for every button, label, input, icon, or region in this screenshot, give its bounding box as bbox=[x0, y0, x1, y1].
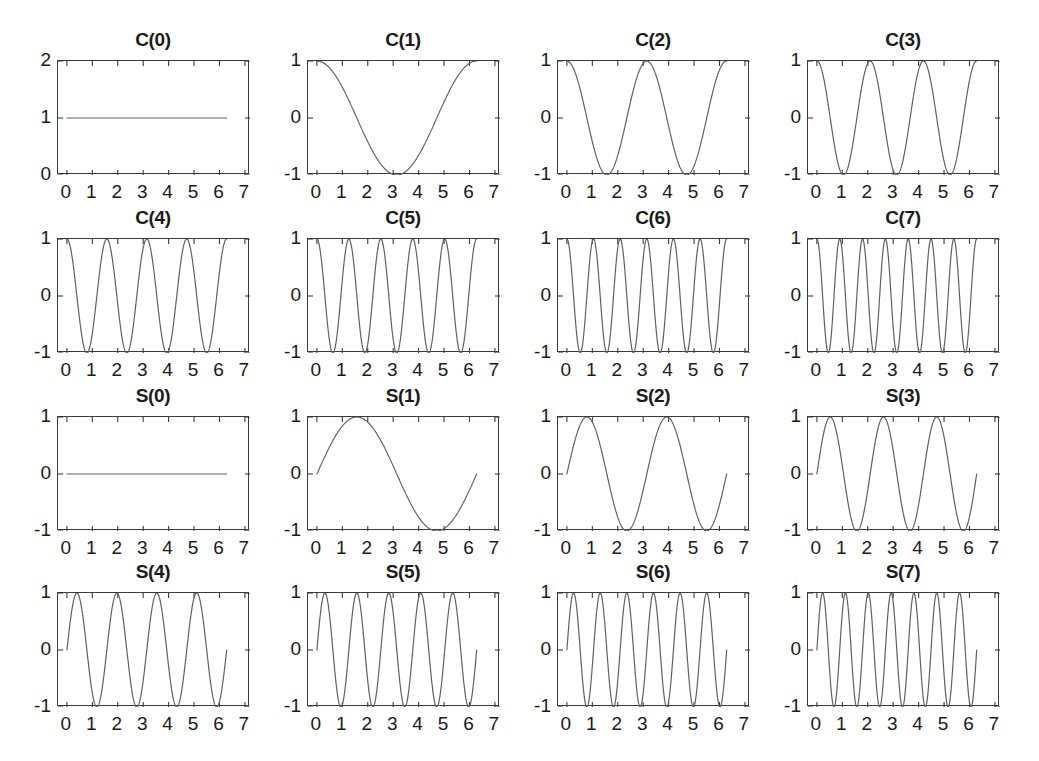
x-axis-tick-label: 7 bbox=[732, 360, 756, 379]
x-axis-tick-label: 7 bbox=[482, 360, 506, 379]
x-axis-tick-label: 3 bbox=[380, 538, 404, 557]
plot-axes-box bbox=[807, 416, 999, 530]
y-axis-tick-label: -1 bbox=[267, 164, 301, 183]
x-axis-tick-label: 1 bbox=[79, 714, 103, 733]
x-axis-tick-label: 7 bbox=[232, 538, 256, 557]
plot-drawing bbox=[308, 61, 500, 175]
x-axis-tick-label: 3 bbox=[130, 360, 154, 379]
x-axis-tick-label: 2 bbox=[855, 714, 879, 733]
x-axis-tick-label: 3 bbox=[630, 360, 654, 379]
x-axis-tick-label: 5 bbox=[681, 714, 705, 733]
x-axis-tick-label: 4 bbox=[156, 360, 180, 379]
y-axis-tick-label: 1 bbox=[267, 406, 301, 425]
plot-drawing bbox=[558, 239, 750, 353]
data-series-line bbox=[817, 239, 977, 353]
y-axis-tick-label: -1 bbox=[267, 520, 301, 539]
x-axis-tick-label: 4 bbox=[906, 360, 930, 379]
x-axis-tick-label: 1 bbox=[329, 714, 353, 733]
panel-title: S(2) bbox=[557, 386, 749, 406]
plot-axes-box bbox=[557, 416, 749, 530]
plot-drawing bbox=[558, 593, 750, 707]
x-axis-tick-label: 5 bbox=[431, 360, 455, 379]
x-axis-tick-label: 7 bbox=[982, 360, 1006, 379]
x-axis-tick-label: 0 bbox=[804, 182, 828, 201]
x-axis-tick-label: 3 bbox=[630, 182, 654, 201]
y-axis-tick-label: 0 bbox=[517, 463, 551, 482]
plot-drawing bbox=[808, 593, 1000, 707]
x-axis-tick-label: 0 bbox=[554, 538, 578, 557]
x-axis-tick-label: 6 bbox=[456, 360, 480, 379]
x-axis-tick-label: 1 bbox=[579, 538, 603, 557]
x-axis-tick-label: 2 bbox=[855, 182, 879, 201]
y-axis-tick-label: -1 bbox=[517, 342, 551, 361]
data-series-line bbox=[317, 417, 477, 531]
x-axis-tick-label: 5 bbox=[681, 538, 705, 557]
y-axis-tick-label: -1 bbox=[767, 342, 801, 361]
x-axis-tick-label: 7 bbox=[732, 182, 756, 201]
y-axis-tick-label: 1 bbox=[767, 228, 801, 247]
x-axis-tick-label: 4 bbox=[156, 714, 180, 733]
figure-canvas: C(0)01201234567C(1)-10101234567C(2)-1010… bbox=[0, 0, 1039, 761]
x-axis-tick-label: 6 bbox=[706, 538, 730, 557]
x-axis-tick-label: 5 bbox=[181, 714, 205, 733]
x-axis-tick-label: 7 bbox=[982, 538, 1006, 557]
plot-axes-box bbox=[57, 60, 249, 174]
y-axis-tick-label: -1 bbox=[17, 520, 51, 539]
x-axis-tick-label: 1 bbox=[79, 538, 103, 557]
y-axis-tick-label: 0 bbox=[17, 639, 51, 658]
x-axis-tick-label: 1 bbox=[579, 182, 603, 201]
plot-axes-box bbox=[307, 238, 499, 352]
y-axis-tick-label: 0 bbox=[267, 107, 301, 126]
y-axis-tick-label: 1 bbox=[267, 228, 301, 247]
x-axis-tick-label: 2 bbox=[105, 182, 129, 201]
panel-title: S(0) bbox=[57, 386, 249, 406]
panel-title: S(4) bbox=[57, 562, 249, 582]
y-axis-tick-label: -1 bbox=[517, 164, 551, 183]
plot-drawing bbox=[308, 417, 500, 531]
x-axis-tick-label: 2 bbox=[605, 182, 629, 201]
x-axis-tick-label: 1 bbox=[829, 538, 853, 557]
data-series-line bbox=[317, 61, 477, 175]
x-axis-tick-label: 0 bbox=[304, 714, 328, 733]
x-axis-tick-label: 0 bbox=[54, 538, 78, 557]
x-axis-tick-label: 3 bbox=[130, 538, 154, 557]
y-axis-tick-label: 0 bbox=[767, 463, 801, 482]
x-axis-tick-label: 1 bbox=[829, 714, 853, 733]
x-axis-tick-label: 4 bbox=[406, 538, 430, 557]
x-axis-tick-label: 3 bbox=[880, 360, 904, 379]
data-series-line bbox=[817, 417, 977, 531]
x-axis-tick-label: 7 bbox=[982, 714, 1006, 733]
x-axis-tick-label: 3 bbox=[880, 182, 904, 201]
x-axis-tick-label: 7 bbox=[482, 182, 506, 201]
x-axis-tick-label: 2 bbox=[105, 360, 129, 379]
x-axis-tick-label: 5 bbox=[431, 714, 455, 733]
y-axis-tick-label: -1 bbox=[517, 696, 551, 715]
x-axis-tick-label: 2 bbox=[355, 538, 379, 557]
x-axis-tick-label: 5 bbox=[931, 714, 955, 733]
x-axis-tick-label: 3 bbox=[380, 360, 404, 379]
x-axis-tick-label: 2 bbox=[105, 714, 129, 733]
x-axis-tick-label: 2 bbox=[355, 360, 379, 379]
x-axis-tick-label: 6 bbox=[206, 714, 230, 733]
plot-drawing bbox=[58, 239, 250, 353]
plot-axes-box bbox=[307, 416, 499, 530]
plot-axes-box bbox=[557, 60, 749, 174]
plot-axes-box bbox=[557, 238, 749, 352]
x-axis-tick-label: 5 bbox=[181, 360, 205, 379]
x-axis-tick-label: 5 bbox=[931, 360, 955, 379]
x-axis-tick-label: 2 bbox=[105, 538, 129, 557]
x-axis-tick-label: 4 bbox=[156, 538, 180, 557]
y-axis-tick-label: -1 bbox=[767, 696, 801, 715]
x-axis-tick-label: 3 bbox=[630, 538, 654, 557]
x-axis-tick-label: 7 bbox=[482, 538, 506, 557]
x-axis-tick-label: 5 bbox=[931, 182, 955, 201]
x-axis-tick-label: 4 bbox=[156, 182, 180, 201]
y-axis-tick-label: 0 bbox=[267, 463, 301, 482]
plot-drawing bbox=[308, 239, 500, 353]
panel-title: S(6) bbox=[557, 562, 749, 582]
y-axis-tick-label: 0 bbox=[767, 107, 801, 126]
x-axis-tick-label: 4 bbox=[656, 360, 680, 379]
panel-title: C(7) bbox=[807, 208, 999, 228]
y-axis-tick-label: 1 bbox=[17, 107, 51, 126]
x-axis-tick-label: 0 bbox=[304, 538, 328, 557]
